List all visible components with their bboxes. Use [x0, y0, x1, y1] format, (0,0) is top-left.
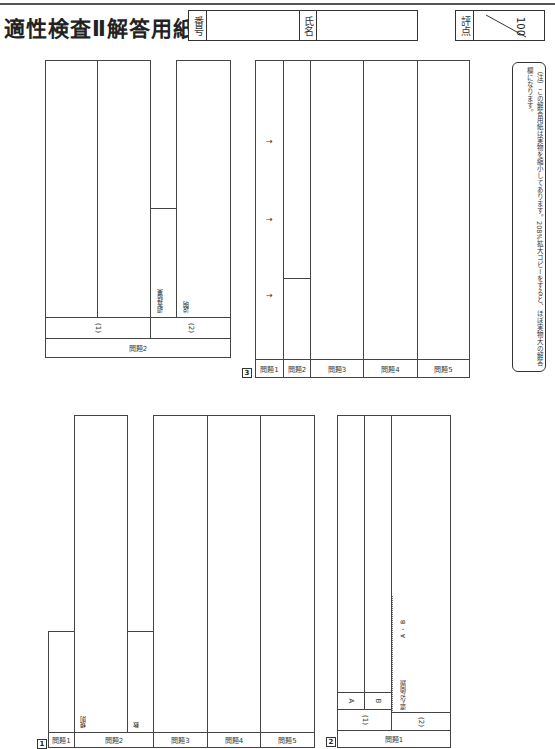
arrow-icon: →: [266, 137, 273, 146]
q2-part2-label: (2): [150, 317, 231, 339]
s1-q5-label-text: 問題5: [278, 735, 296, 745]
s1-q1-answer[interactable]: [48, 631, 75, 733]
q2-label-text: 問題2: [129, 343, 147, 353]
s3-q5-answer[interactable]: [417, 60, 470, 360]
part2-label-text: (2): [417, 717, 425, 727]
s2-row-b-label: B: [364, 692, 392, 710]
rule-label: 規則: [78, 716, 87, 728]
s2-row-a-label: A: [337, 692, 365, 710]
q2-part1-answer-b[interactable]: [97, 60, 151, 318]
s3-q4-answer[interactable]: [363, 60, 418, 360]
number-field[interactable]: [207, 11, 299, 40]
part2-label-text: (2): [186, 323, 194, 333]
s1-q1-label: 問題1: [48, 732, 75, 748]
s2-part1-a-answer[interactable]: [337, 415, 365, 693]
row-b-text: B: [374, 699, 382, 704]
q2-label: 問題2: [45, 338, 231, 358]
s2-part1-label: (1): [337, 709, 392, 731]
arrow-icon: →: [266, 215, 273, 224]
s1-q4-label: 問題4: [207, 732, 261, 748]
q2-part2-explanation[interactable]: 説明: [176, 60, 231, 318]
chosen-question: 選んだ問題 A ・ B: [398, 600, 407, 710]
s2-part1-b-answer[interactable]: [364, 415, 392, 693]
section2-marker: 2: [326, 737, 336, 747]
section2: 選んだ問題 A ・ B A B (1) (2) 問題1 2: [325, 413, 460, 747]
s2-part2-answer[interactable]: 選んだ問題 A ・ B: [391, 415, 451, 713]
s1-q2-label-text: 問題2: [105, 735, 123, 745]
s1-q1-label-text: 問題1: [52, 735, 70, 745]
s3-q1-label-text: 問題1: [260, 364, 278, 374]
section3: → → → 問題1 問題2 問題3 問題4 問題5 3: [240, 60, 470, 380]
s3-q3-label-text: 問題3: [328, 364, 346, 374]
s2-q1-label: 問題1: [337, 730, 451, 748]
student-info-box: 番号 氏名: [188, 10, 418, 41]
score-label-text: 評点: [457, 16, 472, 36]
s1-q4-label-text: 問題4: [225, 735, 243, 745]
s3-q5-label-text: 問題5: [434, 364, 452, 374]
number-label: 数: [131, 722, 140, 728]
s1-q2-label: 問題2: [74, 732, 154, 748]
q2-part1-answer-a[interactable]: [45, 60, 98, 318]
s1-q3-label-text: 問題3: [171, 735, 189, 745]
chosen-question-label: 選んだ問題: [398, 680, 407, 710]
explanation-label: 説明: [181, 301, 190, 313]
s3-q3-label: 問題3: [310, 359, 364, 378]
number-label-text: 番号: [190, 16, 205, 36]
s3-q1-answer[interactable]: → → →: [255, 60, 284, 360]
survey-result-label: 調査結果: [155, 289, 164, 313]
name-field[interactable]: [317, 11, 417, 40]
s3-q1-label: 問題1: [255, 359, 284, 378]
section1: 規則 数 問題1 問題2 問題3 問題4 問題5 1: [35, 413, 320, 747]
q2-part1-label: (1): [45, 317, 151, 339]
name-label: 氏名: [299, 11, 317, 40]
name-label-text: 氏名: [301, 16, 316, 36]
s1-q2-rule-answer[interactable]: 規則: [74, 415, 128, 733]
top-rule: [0, 3, 555, 5]
s3-q2-label-text: 問題2: [288, 364, 306, 374]
s1-q3-answer[interactable]: [153, 415, 208, 733]
s3-q2-answer-lower[interactable]: [283, 278, 311, 360]
part1-label-text: (1): [94, 323, 102, 333]
s1-q5-label: 問題5: [260, 732, 315, 748]
score-box: 評点 100: [455, 10, 545, 41]
s3-q4-label: 問題4: [363, 359, 418, 378]
chosen-question-options[interactable]: A ・ B: [398, 620, 407, 638]
part1-label-text: (1): [360, 715, 368, 725]
section1-marker: 1: [37, 739, 47, 749]
number-label: 番号: [189, 11, 207, 40]
s1-q4-answer[interactable]: [207, 415, 261, 733]
s3-q2-label: 問題2: [283, 359, 311, 378]
score-label: 評点: [456, 11, 474, 40]
section3-marker: 3: [242, 368, 252, 378]
s3-q5-label: 問題5: [417, 359, 470, 378]
s3-q3-answer[interactable]: [310, 60, 364, 360]
s1-q3-label: 問題3: [153, 732, 208, 748]
page-title: 適性検査Ⅱ解答用紙: [4, 12, 195, 42]
arrow-icon: →: [266, 291, 273, 300]
chosen-question-box: 選んだ問題 A ・ B: [392, 596, 414, 713]
s2-q1-label-text: 問題1: [385, 734, 403, 744]
section1-question2: 調査結果 説明 (1) (2) 問題2: [45, 60, 233, 378]
q2-part2-survey-result[interactable]: 調査結果: [150, 208, 177, 318]
note-box: （注）この解答用紙は実物を縮小してあります。208%拡大コピーをすると、ほぼ実物…: [512, 62, 546, 372]
s3-q2-answer-upper[interactable]: [283, 60, 311, 278]
score-total: 100: [515, 17, 526, 36]
s1-q2-number-answer[interactable]: 数: [127, 631, 154, 733]
score-field[interactable]: 100: [474, 11, 544, 40]
s3-q4-label-text: 問題4: [381, 364, 399, 374]
s1-q5-answer[interactable]: [260, 415, 315, 733]
s2-part2-label: (2): [391, 712, 451, 731]
row-a-text: A: [347, 699, 355, 704]
